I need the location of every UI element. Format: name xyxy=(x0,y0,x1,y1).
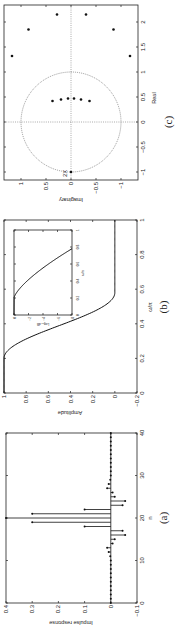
x-tick-label: 1 xyxy=(76,229,80,231)
panel-b-ylabel: Amplitude xyxy=(58,410,82,416)
panel-b-caption: (b) xyxy=(157,300,170,313)
stem-marker xyxy=(124,500,126,502)
panel-a: 010203040−0.100.10.20.30.4 n Impulse res… xyxy=(3,429,170,626)
panel-c: −1−0.500.511.52−1−0.500.51 2X Real Imagi… xyxy=(4,5,175,203)
x-tick-label: 30 xyxy=(139,472,145,479)
x-tick-label: 0 xyxy=(76,314,80,316)
stem-marker xyxy=(110,598,112,600)
zero-marker xyxy=(88,100,91,103)
panel-b-amplitude-curve xyxy=(4,220,115,393)
stem-marker xyxy=(110,594,112,596)
y-tick-label: 0 xyxy=(108,604,114,608)
zero-marker xyxy=(80,98,83,101)
stem-marker xyxy=(110,577,112,579)
stem-marker xyxy=(110,602,112,604)
zero-marker xyxy=(70,171,73,174)
x-tick-label: −0.5 xyxy=(140,140,146,153)
y-tick-label: −2 xyxy=(28,317,32,321)
zero-marker xyxy=(51,100,54,103)
stem-marker xyxy=(110,432,112,434)
y-tick-label: −4 xyxy=(42,317,46,321)
panel-c-caption: (c) xyxy=(162,116,175,129)
panel-c-xlabel: Real xyxy=(151,92,157,103)
stem-marker xyxy=(110,449,112,451)
y-tick-label: 0 xyxy=(13,317,17,319)
stem-marker xyxy=(110,560,112,562)
y-tick-label: 1 xyxy=(18,181,24,185)
x-tick-label: 0 xyxy=(139,601,145,605)
x-tick-label: 0.8 xyxy=(76,245,80,250)
x-tick-label: 0.5 xyxy=(140,92,146,101)
stem-marker xyxy=(110,453,112,455)
x-tick-label: 20 xyxy=(139,514,145,521)
x-tick-label: 0 xyxy=(140,120,146,124)
stem-marker xyxy=(110,572,112,574)
inset-ylabel: Log₁₀ dB xyxy=(37,322,50,326)
x-tick-label: 0.6 xyxy=(76,262,80,267)
stem-marker xyxy=(124,534,126,536)
stem-marker xyxy=(110,466,112,468)
x-tick-label: 0.6 xyxy=(139,284,145,293)
stem-marker xyxy=(110,564,112,566)
stem-marker xyxy=(31,513,33,515)
stem-marker xyxy=(110,475,112,477)
panel-c-ticks: −1−0.500.511.52−1−0.500.51 xyxy=(4,5,146,194)
zero-marker xyxy=(112,28,115,31)
y-tick-label: 0.2 xyxy=(90,394,96,403)
x-tick-label: 0 xyxy=(139,391,145,395)
y-tick-label: 0.2 xyxy=(55,604,61,613)
inset-xlabel: ω/π xyxy=(81,269,85,275)
y-tick-label: 0 xyxy=(68,181,74,185)
y-tick-label: 0 xyxy=(112,394,118,398)
y-tick-label: −0.1 xyxy=(134,604,140,617)
stem-marker xyxy=(110,441,112,443)
zero-marker xyxy=(73,97,76,100)
y-tick-label: 1 xyxy=(1,394,7,398)
x-tick-label: 0.8 xyxy=(139,250,145,259)
stem-marker xyxy=(31,521,33,523)
stem-marker xyxy=(109,479,111,481)
stem-marker xyxy=(114,496,116,498)
stem-marker xyxy=(122,504,124,506)
zero-marker xyxy=(129,55,132,58)
panel-b-inset: 00.20.40.60.810−2−4−6−8 ω/π Log₁₀ dB xyxy=(13,229,85,326)
stem-marker xyxy=(108,483,110,485)
panel-b-ticks: 00.20.40.60.81−0.200.20.40.60.81 xyxy=(1,218,145,407)
inset-ticks: 00.20.40.60.810−2−4−6−8 xyxy=(13,229,80,321)
stem-marker xyxy=(106,547,108,549)
panel-a-ylabel: Impulse response xyxy=(49,620,92,626)
zero-marker xyxy=(11,55,14,58)
stem-marker xyxy=(109,555,111,557)
stem-marker xyxy=(110,585,112,587)
stem-marker xyxy=(108,551,110,553)
x-tick-label: 0.4 xyxy=(139,319,145,328)
stem-marker xyxy=(110,470,112,472)
stem-marker xyxy=(110,568,112,570)
stem-marker xyxy=(110,445,112,447)
stem-marker xyxy=(110,462,112,464)
zero-marker xyxy=(27,28,30,31)
zero-marker xyxy=(85,13,88,16)
stem-marker xyxy=(114,538,116,540)
y-tick-label: 0.1 xyxy=(82,604,88,613)
x-tick-label: −1 xyxy=(140,168,146,176)
x-tick-label: 1.5 xyxy=(140,42,146,51)
x-tick-label: 2 xyxy=(140,20,146,24)
panel-a-xlabel: n xyxy=(147,516,153,519)
stem-marker xyxy=(112,492,114,494)
stem-marker xyxy=(106,487,108,489)
panel-a-ticks: 010203040−0.100.10.20.30.4 xyxy=(3,429,145,617)
panel-c-axes-lines xyxy=(4,5,138,180)
x-tick-label: 40 xyxy=(139,429,145,436)
x-tick-label: 1 xyxy=(140,70,146,74)
stem-marker xyxy=(84,526,86,528)
x-tick-label: 0.4 xyxy=(76,279,80,284)
panel-b-frame xyxy=(4,220,137,393)
panel-b: 00.20.40.60.81−0.200.20.40.60.81 00.20.4… xyxy=(1,218,170,416)
inset-log-curve xyxy=(14,249,72,315)
stem-marker xyxy=(110,581,112,583)
figure: −1−0.500.511.52−1−0.500.51 2X Real Imagi… xyxy=(0,0,187,630)
stem-marker xyxy=(110,436,112,438)
panel-a-stems xyxy=(5,432,126,604)
panel-a-caption: (a) xyxy=(157,512,170,525)
